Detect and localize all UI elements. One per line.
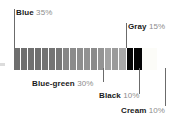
proportion-bar [14,48,172,70]
bar-segment-cream [142,48,157,70]
callout-pct-black: 10% [123,91,139,100]
callout-pct-blue: 35% [36,8,52,17]
leader-line-gray [126,23,127,49]
callout-label-black: Black 10% [99,91,140,100]
callout-name-cream: Cream [121,106,146,115]
callout-name-gray: Gray [128,22,147,31]
callout-pct-gray: 15% [149,22,165,31]
callout-label-gray: Gray 15% [128,22,165,31]
leader-line-blue [14,9,15,49]
color-proportion-chart: Blue 35% Gray 15% [0,0,181,125]
callout-name-black: Black [99,91,121,100]
callout-label-blue: Blue 35% [16,8,52,17]
leader-line-bluegreen [103,68,104,82]
bar-segment-gray [119,48,126,70]
callout-pct-bluegreen: 30% [77,79,93,88]
edge-artifact [0,63,5,66]
bar-segment-black [134,48,142,70]
callout-name-blue: Blue [16,8,34,17]
callout-pct-cream: 10% [149,106,165,115]
callout-label-cream: Cream 10% [121,106,165,115]
leader-line-cream [165,68,166,106]
callout-name-bluegreen: Blue-green [32,79,75,88]
callout-label-bluegreen: Blue-green 30% [32,79,93,88]
